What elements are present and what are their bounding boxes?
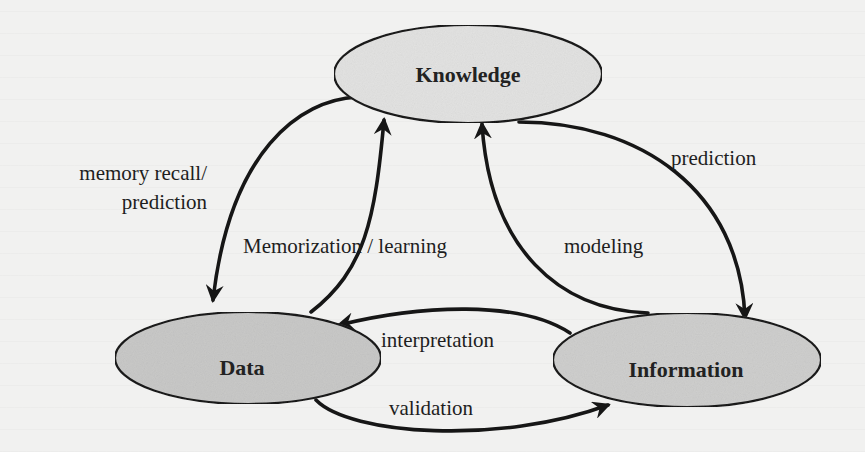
label-memory-recall: memory recall/ (79, 161, 207, 185)
diagram-canvas: Knowledge Data Information memory recall… (0, 0, 865, 452)
edge-modeling-arrow (482, 124, 648, 313)
information-label: Information (629, 357, 744, 382)
dikw-diagram: Knowledge Data Information memory recall… (0, 0, 865, 452)
label-interpretation: interpretation (381, 328, 495, 352)
data-label: Data (219, 355, 264, 380)
label-validation: validation (389, 396, 473, 420)
knowledge-label: Knowledge (415, 62, 520, 87)
label-modeling: modeling (564, 234, 644, 258)
node-data: Data (115, 312, 381, 404)
label-memorization: Memorization / learning (243, 234, 448, 258)
node-knowledge: Knowledge (334, 25, 602, 123)
label-prediction: prediction (671, 146, 757, 170)
edge-memorization-arrow (311, 120, 384, 312)
edge-memory-recall-arrow (213, 97, 357, 300)
label-memory-recall-line2: prediction (122, 190, 208, 214)
node-information: Information (553, 313, 821, 407)
